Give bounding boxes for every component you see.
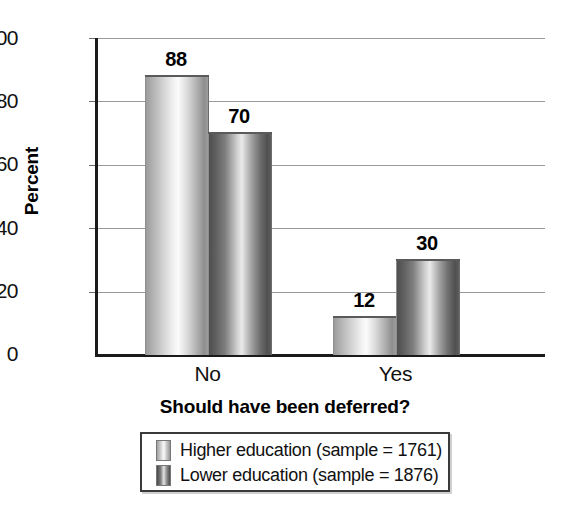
legend-label-higher: Higher education (sample = 1761) [180,440,442,461]
bar-lower-no[interactable] [208,133,272,355]
bar-top-edge [208,132,272,134]
bar-value-12: 12 [323,289,405,312]
bar-value-88: 88 [135,48,217,71]
y-axis-line [95,38,98,355]
legend-item-higher-education[interactable]: Higher education (sample = 1761) [156,437,442,463]
y-tick-label-100: 100 [0,26,18,50]
legend: Higher education (sample = 1761) Lower e… [140,432,450,492]
legend-item-lower-education[interactable]: Lower education (sample = 1876) [156,462,438,488]
category-label-yes: Yes [333,362,458,386]
y-axis-title: Percent [21,121,43,241]
gridline-100 [95,38,545,39]
legend-label-lower: Lower education (sample = 1876) [180,465,438,486]
legend-swatch-icon-lower [156,465,171,486]
bar-value-30: 30 [386,232,468,255]
bar-lower-yes[interactable] [396,260,460,355]
y-tick-label-60: 60 [0,152,18,176]
bar-top-edge [396,259,460,261]
bar-chart: Percent 100 80 60 40 20 0 [0,0,570,518]
category-label-no: No [145,362,270,386]
y-tick-label-20: 20 [0,279,18,303]
bar-value-70: 70 [198,105,280,128]
y-tick-label-80: 80 [0,89,18,113]
x-axis-title: Should have been deferred? [0,396,570,418]
bar-top-edge [145,75,209,77]
y-tick-label-40: 40 [0,216,18,240]
legend-swatch-icon-higher [156,440,171,461]
y-tick-label-0: 0 [0,342,18,366]
bar-higher-yes[interactable] [333,317,397,355]
bar-top-edge [333,316,397,318]
plot-area: 88 70 12 30 [95,38,545,355]
